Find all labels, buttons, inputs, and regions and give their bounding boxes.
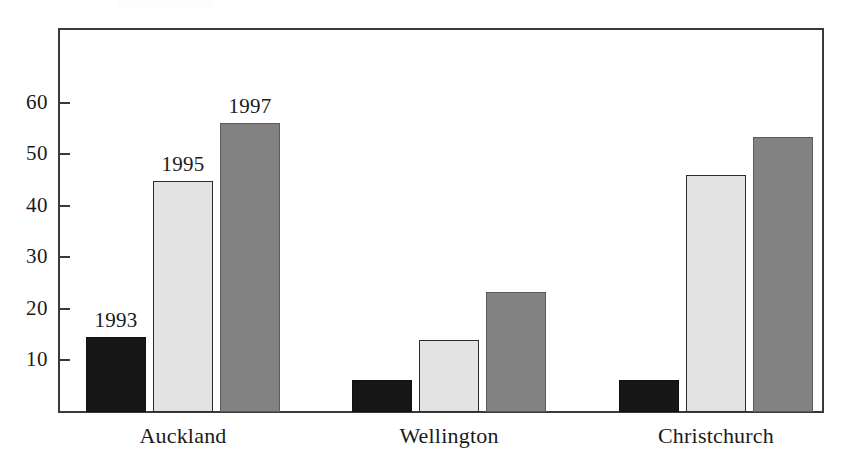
bar-series-label-1995: 1995: [139, 154, 227, 175]
bar-wellington-1993: [352, 380, 412, 412]
category-label-auckland: Auckland: [73, 424, 293, 448]
bar-christchurch-1997: [753, 137, 813, 412]
category-label-christchurch: Christchurch: [606, 424, 826, 448]
category-label-wellington: Wellington: [339, 424, 559, 448]
bar-wellington-1995: [419, 340, 479, 412]
bar-auckland-1993: [86, 337, 146, 412]
y-axis-tick: [58, 153, 70, 155]
bar-auckland-1995: [153, 181, 213, 412]
y-axis-tick: [58, 256, 70, 258]
bar-christchurch-1993: [619, 380, 679, 412]
y-axis-tick: [58, 205, 70, 207]
y-axis-tick: [58, 308, 70, 310]
y-axis-tick-label: 10: [2, 349, 48, 370]
y-axis-tick: [58, 102, 70, 104]
bar-auckland-1997: [220, 123, 280, 412]
y-axis-tick-label: 60: [2, 92, 48, 113]
y-axis-tick-label: 30: [2, 246, 48, 267]
bar-chart: 102030405060 199319951997 AucklandWellin…: [0, 0, 847, 469]
bar-christchurch-1995: [686, 175, 746, 412]
bar-series-label-1997: 1997: [206, 96, 294, 117]
bar-wellington-1997: [486, 292, 546, 412]
bar-series-label-1993: 1993: [72, 310, 160, 331]
y-axis-tick-label: 50: [2, 143, 48, 164]
y-axis-tick-label: 40: [2, 195, 48, 216]
scan-artifact: [118, 0, 213, 7]
y-axis-tick: [58, 359, 70, 361]
y-axis-tick-label: 20: [2, 298, 48, 319]
